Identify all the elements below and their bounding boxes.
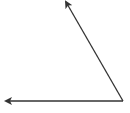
angle-diagram <box>0 0 130 113</box>
slanted-ray <box>66 2 123 101</box>
